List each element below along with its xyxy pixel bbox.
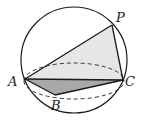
vertex-c [122,79,125,82]
label-p: P [115,10,125,25]
label-c: C [125,74,135,89]
diagram-canvas: A B C P [0,0,147,129]
sphere-tetrahedron-diagram: A B C P [0,0,147,129]
label-a: A [7,74,17,89]
face-pac [25,25,123,80]
vertex-a [24,78,27,81]
label-b: B [50,98,61,113]
